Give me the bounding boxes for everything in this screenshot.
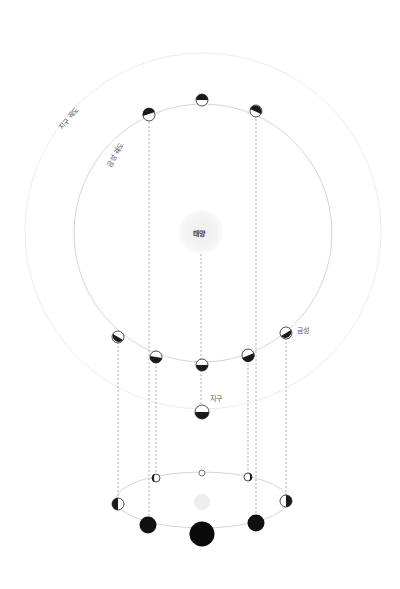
venus-bottom-center xyxy=(196,359,208,371)
earth-label: 지구 xyxy=(210,393,222,403)
phase-top xyxy=(199,470,205,476)
phase-bottom xyxy=(190,522,215,547)
venus-bottom-right xyxy=(242,349,254,362)
phase-upper-right xyxy=(244,473,252,481)
venus-top-right xyxy=(250,105,262,117)
venus-phases-diagram xyxy=(0,0,400,589)
projection-lines xyxy=(118,115,286,520)
phase-lower-right xyxy=(248,515,265,532)
venus-label: 금성 xyxy=(297,325,309,335)
venus-top-left xyxy=(143,108,155,121)
venus-top xyxy=(196,94,208,106)
venus-bottom-far-left xyxy=(112,331,124,343)
earth xyxy=(195,405,209,419)
sun-label: 태양 xyxy=(193,228,205,238)
phase-lower-left xyxy=(140,517,157,534)
sun-small xyxy=(194,494,210,510)
venus-bottom-left xyxy=(150,351,162,363)
venus-bottom-far-right xyxy=(280,327,292,339)
phase-left xyxy=(112,498,124,510)
phase-upper-left xyxy=(152,474,160,482)
phase-right xyxy=(280,495,292,507)
